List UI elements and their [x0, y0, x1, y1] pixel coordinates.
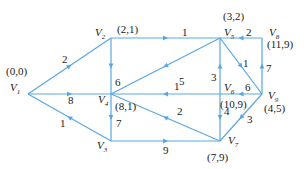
- arrowheads-layer: [66, 36, 264, 144]
- node-v1: V1(0,0): [6, 65, 27, 96]
- edge-weight: 7: [266, 62, 272, 74]
- node-name: V7: [228, 134, 239, 149]
- arrow-icon: [218, 115, 223, 120]
- edge-weight: 5: [179, 75, 185, 87]
- edge-weight: 2: [177, 105, 183, 117]
- edge-weight: 3: [247, 113, 253, 125]
- directed-graph: 28116512793412763 V1(0,0)V2(2,1)V3V4(8,1…: [0, 0, 305, 169]
- node-label: (8,1): [115, 100, 136, 113]
- edge-weight: 1: [174, 80, 180, 92]
- node-v3: V3: [97, 139, 108, 154]
- node-name: V3: [97, 139, 108, 154]
- node-v8: V8(11,9): [267, 26, 294, 51]
- node-name: V4: [98, 93, 109, 108]
- node-label: (3,2): [223, 10, 244, 23]
- arrow-icon: [260, 64, 265, 69]
- node-label: (4,5): [264, 102, 285, 115]
- arrow-icon: [239, 92, 244, 97]
- edge-weight: 1: [60, 117, 66, 129]
- edge-weight: 6: [245, 81, 251, 93]
- edge-weight: 6: [115, 76, 121, 88]
- arrow-icon: [218, 64, 223, 69]
- edge-weight: 2: [246, 26, 252, 38]
- arrow-icon: [66, 65, 71, 70]
- arrow-icon: [163, 36, 168, 41]
- edge-weight: 8: [68, 94, 74, 106]
- node-label: (7,9): [207, 151, 228, 164]
- arrow-icon: [239, 36, 244, 41]
- node-label: (2,1): [117, 23, 138, 36]
- edge-weight: 1: [182, 26, 188, 38]
- edge-weight: 9: [163, 144, 169, 156]
- arrow-icon: [109, 115, 114, 120]
- node-name: V1: [10, 81, 20, 96]
- edge-weight: 1: [243, 57, 249, 69]
- node-name: V2: [95, 26, 106, 41]
- node-v5: V5(3,2): [223, 10, 244, 41]
- edge-weight: 2: [62, 53, 68, 65]
- arrow-icon: [163, 92, 168, 97]
- edge-weight: 3: [211, 71, 217, 83]
- node-name: V5: [224, 26, 235, 41]
- node-v4: V4(8,1): [98, 93, 136, 113]
- node-v9: V9(4,5): [264, 89, 285, 115]
- arrow-icon: [163, 139, 168, 144]
- arrow-icon: [109, 64, 114, 69]
- edge-weight: 7: [116, 117, 122, 129]
- node-label: (11,9): [267, 38, 294, 51]
- node-label: (10,9): [220, 98, 247, 111]
- edge-weights-layer: 28116512793412763: [60, 26, 272, 156]
- node-label: (0,0): [6, 65, 27, 78]
